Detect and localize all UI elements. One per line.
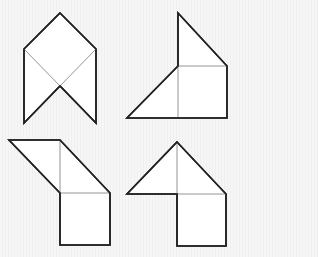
shape-bottom-right: [127, 142, 226, 246]
shape-diagram: [0, 0, 235, 257]
shape-top-right: [127, 13, 227, 118]
shape-top-left: [24, 13, 96, 123]
shape-outline: [24, 13, 96, 123]
shape-bottom-left: [9, 140, 110, 245]
